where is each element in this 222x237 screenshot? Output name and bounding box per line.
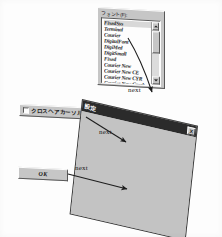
checkbox-box-icon[interactable] — [23, 107, 29, 113]
target-dialog-window: 設定 X — [70, 99, 198, 237]
font-list-scrollbar[interactable] — [151, 22, 159, 84]
close-icon[interactable]: X — [187, 126, 196, 136]
scroll-down-arrow-wrap[interactable] — [152, 76, 160, 84]
scroll-up-arrow-icon[interactable] — [152, 22, 159, 30]
ok-button[interactable]: OK — [18, 167, 68, 182]
font-list[interactable]: FixedSys Terminal Courier DigitalFont Di… — [104, 19, 151, 85]
font-picker-panel: フォント(F): FixedSys Terminal Courier Digit… — [97, 7, 165, 89]
next-label: next — [75, 164, 88, 172]
next-label: next — [128, 86, 141, 94]
font-list-frame: FixedSys Terminal Courier DigitalFont Di… — [101, 17, 161, 86]
scrollbar-thumb[interactable] — [152, 31, 160, 53]
next-label: next — [99, 128, 112, 136]
figure-canvas: フォント(F): FixedSys Terminal Courier Digit… — [0, 0, 222, 237]
scroll-down-arrow-icon[interactable] — [152, 76, 160, 84]
